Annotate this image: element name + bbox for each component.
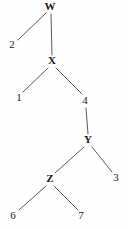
tree-edge-w-l2 (18, 13, 46, 40)
tree-leaf-6: 6 (6, 210, 20, 221)
tree-edge-x-l1 (23, 68, 48, 92)
tree-node-w: W (42, 1, 58, 12)
tree-leaf-3: 3 (109, 172, 123, 183)
tree-edge-x-l4 (56, 68, 82, 94)
tree-leaf-7: 7 (74, 210, 88, 221)
tree-node-z: Z (42, 173, 58, 184)
tree-edge-l4-y (86, 108, 88, 134)
tree-edge-y-z (55, 147, 84, 173)
tree-edge-z-l6 (19, 186, 46, 210)
tree-leaf-2: 2 (5, 39, 19, 50)
tree-edges-layer (0, 0, 128, 229)
edges-group (18, 13, 112, 210)
tree-diagram: WXYZ 214367 (0, 0, 128, 229)
tree-edge-w-x (51, 14, 52, 55)
tree-edge-y-l3 (92, 147, 112, 172)
tree-leaf-4: 4 (78, 95, 92, 106)
tree-node-x: X (44, 55, 60, 66)
tree-node-y: Y (80, 134, 96, 145)
tree-edge-z-l7 (54, 186, 78, 210)
tree-leaf-1: 1 (12, 92, 26, 103)
